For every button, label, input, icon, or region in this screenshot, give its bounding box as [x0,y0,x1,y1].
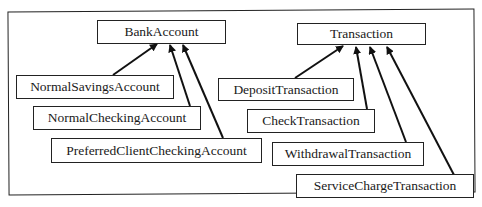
class-normal-savings-account: NormalSavingsAccount [16,75,174,99]
class-preferred-client-checking-account: PreferredClientCheckingAccount [51,138,262,163]
class-service-charge-transaction: ServiceChargeTransaction [296,174,474,198]
class-withdrawal-transaction: WithdrawalTransaction [272,142,424,166]
class-transaction: Transaction [297,23,426,45]
class-bank-account: BankAccount [97,20,226,44]
arrow-withdrawal [370,47,406,142]
class-normal-checking-account: NormalCheckingAccount [33,106,201,130]
class-check-transaction: CheckTransaction [247,109,375,133]
class-deposit-transaction: DepositTransaction [218,78,354,101]
arrow-normal-savings [113,44,157,75]
arrow-check [356,47,367,109]
arrow-deposit [295,46,343,78]
